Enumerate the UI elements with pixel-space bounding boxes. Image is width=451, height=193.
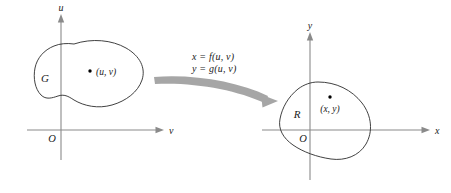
v-axis-label: v	[169, 125, 174, 136]
y-axis-label: y	[307, 20, 313, 31]
region-r-label: R	[293, 108, 301, 120]
xy-plane-group: y x O R (x, y)	[262, 20, 440, 180]
uv-point-marker	[88, 69, 91, 72]
mapping-arrowhead	[261, 95, 278, 108]
xy-origin-label: O	[299, 133, 307, 144]
xy-point-label: (x, y)	[320, 104, 340, 115]
region-r-outline	[280, 82, 371, 159]
uv-origin-label: O	[48, 133, 56, 144]
transformation-diagram: u v O G (u, v) x = f(u, v) y = g(u, v) y…	[0, 0, 451, 193]
mapping-group: x = f(u, v) y = g(u, v)	[154, 51, 278, 108]
mapping-arrow-band	[154, 76, 268, 103]
xy-point-marker	[328, 95, 331, 98]
equation-x: x = f(u, v)	[191, 51, 235, 63]
uv-point-label: (u, v)	[96, 67, 116, 78]
u-axis-arrowhead	[58, 14, 64, 23]
x-axis-label: x	[434, 125, 440, 136]
region-g-outline	[34, 41, 143, 107]
region-g-label: G	[41, 72, 49, 84]
y-axis-arrowhead	[307, 32, 313, 41]
x-axis-arrowhead	[422, 127, 431, 133]
equation-y: y = g(u, v)	[191, 63, 237, 75]
v-axis-arrowhead	[156, 127, 165, 133]
u-axis-label: u	[59, 2, 64, 13]
uv-plane-group: u v O G (u, v)	[27, 2, 174, 160]
